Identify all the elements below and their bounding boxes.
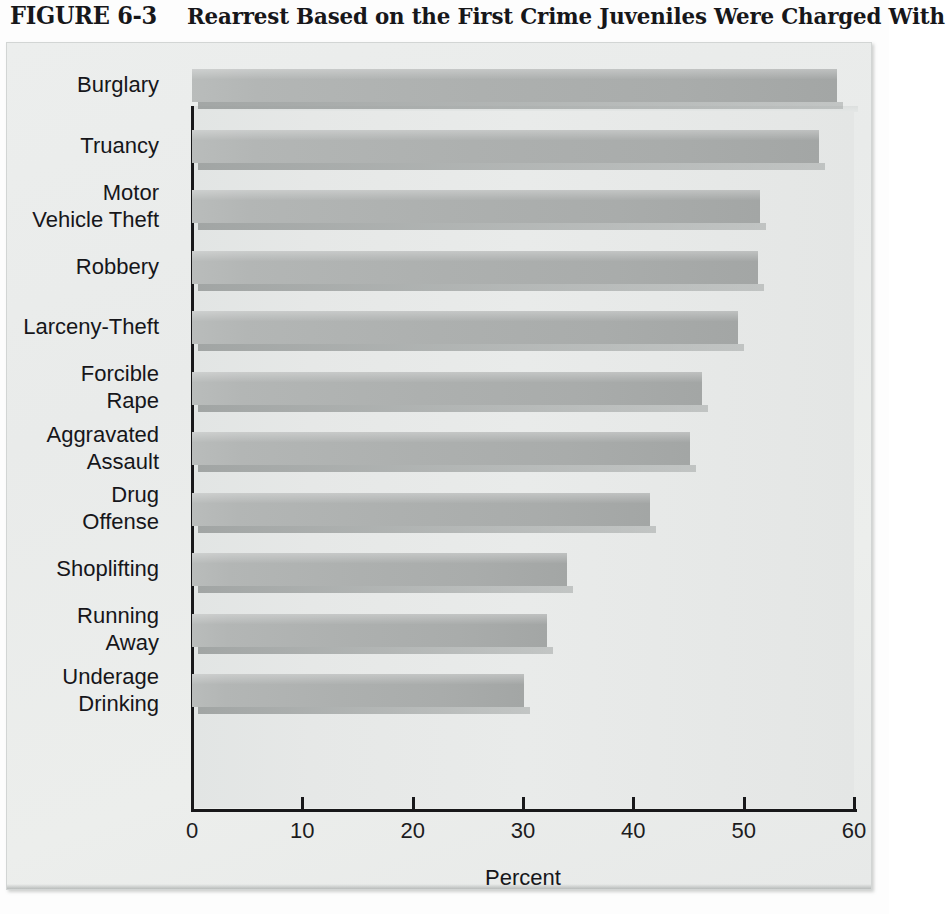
x-tick-label-20: 20: [383, 818, 443, 844]
category-label-larceny-theft: Larceny-Theft: [23, 313, 159, 340]
bar-highlight: [192, 372, 702, 382]
category-label-underage-drinking: Underage Drinking: [62, 663, 159, 717]
bar-shadow: [198, 707, 530, 714]
x-axis-title: Percent: [192, 865, 854, 891]
bar-shadow: [198, 526, 656, 533]
category-label-truancy: Truancy: [80, 132, 159, 159]
bar-highlight: [192, 69, 837, 79]
bar-highlight: [192, 493, 650, 503]
x-tick-label-30: 30: [493, 818, 553, 844]
bar-shadow: [198, 163, 825, 170]
bar-shadow: [198, 284, 764, 291]
category-label-motor-vehicle-theft: Motor Vehicle Theft: [32, 179, 159, 233]
bar-highlight: [192, 553, 567, 563]
figure-title: FIGURE 6-3 Rearrest Based on the First C…: [10, 1, 950, 35]
bar-shadow: [198, 465, 696, 472]
bar-highlight: [192, 311, 738, 321]
x-tick-60: [853, 797, 856, 810]
x-tick-20: [412, 797, 415, 810]
category-label-running-away: Running Away: [77, 602, 159, 656]
chart-panel: 0102030405060 BurglaryTruancyMotor Vehic…: [6, 42, 872, 890]
x-tick-label-0: 0: [162, 818, 222, 844]
bar-highlight: [192, 432, 690, 442]
x-tick-50: [743, 797, 746, 810]
bar-shadow: [198, 647, 553, 654]
category-label-shoplifting: Shoplifting: [56, 555, 159, 582]
bar-shadow: [198, 223, 766, 230]
bar-shadow: [198, 102, 843, 109]
bar-highlight: [192, 251, 758, 261]
x-tick-label-10: 10: [272, 818, 332, 844]
x-tick-30: [522, 797, 525, 810]
bar-shadow: [198, 405, 708, 412]
bar-highlight: [192, 614, 547, 624]
bar-shadow: [198, 586, 573, 593]
category-label-burglary: Burglary: [77, 71, 159, 98]
figure-caption: Rearrest Based on the First Crime Juveni…: [187, 2, 945, 29]
x-tick-label-50: 50: [714, 818, 774, 844]
x-tick-label-40: 40: [603, 818, 663, 844]
bar-highlight: [192, 674, 524, 684]
bar-shadow: [198, 344, 744, 351]
category-label-forcible-rape: Forcible Rape: [81, 360, 159, 414]
x-tick-label-60: 60: [824, 818, 884, 844]
figure-number: FIGURE 6-3: [10, 1, 157, 30]
x-tick-40: [632, 797, 635, 810]
x-tick-10: [301, 797, 304, 810]
category-label-aggravated-assault: Aggravated Assault: [46, 421, 159, 475]
x-tick-0: [191, 797, 194, 810]
bar-highlight: [192, 190, 760, 200]
category-label-robbery: Robbery: [76, 253, 159, 280]
bar-highlight: [192, 130, 819, 140]
category-label-drug-offense: Drug Offense: [82, 481, 159, 535]
